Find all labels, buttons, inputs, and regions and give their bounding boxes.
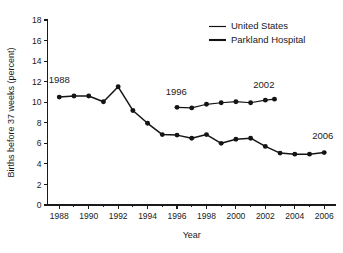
y-axis-title: Births before 37 weeks (percent) xyxy=(6,47,16,177)
y-tick-label-8: 8 xyxy=(37,118,42,128)
data-point-parkland-hospital-3 xyxy=(101,99,106,104)
data-point-parkland-hospital-16 xyxy=(292,152,297,157)
y-tick-label-0: 0 xyxy=(37,200,42,210)
data-point-parkland-hospital-17 xyxy=(307,152,312,157)
data-point-parkland-hospital-9 xyxy=(189,136,194,141)
y-tick-label-14: 14 xyxy=(32,56,42,66)
data-point-united-states-3 xyxy=(219,100,224,105)
x-tick-label-2006: 2006 xyxy=(315,211,334,221)
data-point-parkland-hospital-4 xyxy=(116,84,121,89)
data-point-united-states-6 xyxy=(263,98,268,103)
y-tick-label-4: 4 xyxy=(37,159,42,169)
x-tick-label-1990: 1990 xyxy=(79,211,98,221)
x-tick-label-1996: 1996 xyxy=(168,211,187,221)
line-chart: 024681012141618 198819901992199419961998… xyxy=(0,0,343,253)
data-point-united-states-4 xyxy=(233,99,238,104)
x-tick-label-1988: 1988 xyxy=(50,211,69,221)
x-tick-label-2004: 2004 xyxy=(285,211,304,221)
data-point-parkland-hospital-18 xyxy=(322,150,327,155)
y-tick-label-2: 2 xyxy=(37,180,42,190)
y-tick-label-12: 12 xyxy=(32,77,42,87)
data-point-parkland-hospital-8 xyxy=(175,133,180,138)
y-tick-label-6: 6 xyxy=(37,138,42,148)
x-axis-title: Year xyxy=(183,230,201,240)
data-point-parkland-hospital-5 xyxy=(130,108,135,113)
data-point-parkland-hospital-14 xyxy=(263,144,268,149)
data-point-parkland-hospital-6 xyxy=(145,121,150,126)
data-point-united-states-0 xyxy=(175,105,180,110)
data-point-parkland-hospital-10 xyxy=(204,132,209,137)
data-point-united-states-5 xyxy=(248,100,253,105)
chart-container: 024681012141618 198819901992199419961998… xyxy=(0,0,343,253)
y-tick-label-16: 16 xyxy=(32,36,42,46)
x-tick-label-1998: 1998 xyxy=(197,211,216,221)
data-point-parkland-hospital-0 xyxy=(57,95,62,100)
annotation-2002: 2002 xyxy=(253,79,274,90)
data-point-parkland-hospital-7 xyxy=(160,132,165,137)
x-tick-label-2002: 2002 xyxy=(256,211,275,221)
legend-label-united-states: United States xyxy=(231,20,288,31)
x-tick-label-1992: 1992 xyxy=(109,211,128,221)
data-point-united-states-2 xyxy=(204,102,209,107)
annotation-1988: 1988 xyxy=(49,74,70,85)
annotation-2006: 2006 xyxy=(312,130,333,141)
data-point-parkland-hospital-1 xyxy=(72,94,77,99)
data-point-parkland-hospital-2 xyxy=(86,94,91,99)
annotation-1996: 1996 xyxy=(166,86,187,97)
x-tick-label-2000: 2000 xyxy=(226,211,245,221)
data-point-united-states-1 xyxy=(189,105,194,110)
data-point-parkland-hospital-15 xyxy=(278,151,283,156)
data-point-parkland-hospital-12 xyxy=(233,137,238,142)
legend-label-parkland-hospital: Parkland Hospital xyxy=(231,34,305,45)
x-tick-label-1994: 1994 xyxy=(138,211,157,221)
data-point-united-states-7 xyxy=(272,97,277,102)
data-point-parkland-hospital-13 xyxy=(248,136,253,141)
y-tick-label-10: 10 xyxy=(32,97,42,107)
data-point-parkland-hospital-11 xyxy=(219,141,224,146)
y-tick-label-18: 18 xyxy=(32,15,42,25)
